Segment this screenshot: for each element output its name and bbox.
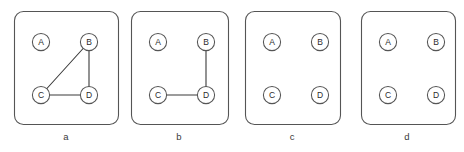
- panel-frame-a: [15, 12, 119, 125]
- graph-panel-b: ABCDb: [132, 12, 229, 143]
- node-D: D: [311, 86, 328, 103]
- panel-caption-b: b: [176, 131, 181, 142]
- node-D: D: [80, 86, 97, 103]
- node-D: D: [197, 86, 214, 103]
- node-label-D: D: [317, 90, 323, 100]
- node-label-C: C: [269, 90, 275, 100]
- graph-diagram-canvas: ABCDaABCDbABCDcABCDd: [0, 0, 464, 152]
- node-label-D: D: [203, 90, 209, 100]
- node-C: C: [149, 86, 166, 103]
- node-label-C: C: [155, 90, 161, 100]
- graph-panel-d: ABCDd: [362, 12, 456, 143]
- node-label-B: B: [433, 37, 439, 47]
- node-label-A: A: [155, 37, 161, 47]
- node-label-C: C: [38, 90, 44, 100]
- panel-caption-c: c: [290, 131, 295, 142]
- node-B: B: [427, 33, 444, 50]
- node-label-B: B: [86, 37, 92, 47]
- node-label-B: B: [317, 37, 323, 47]
- node-C: C: [379, 86, 396, 103]
- graph-panel-c: ABCDc: [246, 12, 341, 143]
- node-A: A: [263, 33, 280, 50]
- node-label-A: A: [385, 37, 391, 47]
- node-A: A: [32, 33, 49, 50]
- node-label-D: D: [86, 90, 92, 100]
- node-A: A: [149, 33, 166, 50]
- node-B: B: [311, 33, 328, 50]
- node-B: B: [197, 33, 214, 50]
- panel-frame-b: [132, 12, 229, 125]
- node-C: C: [263, 86, 280, 103]
- node-D: D: [427, 86, 444, 103]
- graph-figure: ABCDaABCDbABCDcABCDd: [0, 0, 464, 152]
- node-A: A: [379, 33, 396, 50]
- panel-frame-d: [362, 12, 456, 125]
- node-C: C: [32, 86, 49, 103]
- panel-caption-d: d: [404, 131, 409, 142]
- node-B: B: [80, 33, 97, 50]
- graph-panel-a: ABCDa: [15, 12, 119, 143]
- node-label-A: A: [38, 37, 44, 47]
- node-label-D: D: [433, 90, 439, 100]
- node-label-A: A: [269, 37, 275, 47]
- node-label-B: B: [203, 37, 209, 47]
- panel-frame-c: [246, 12, 341, 125]
- node-label-C: C: [385, 90, 391, 100]
- panel-caption-a: a: [63, 131, 69, 142]
